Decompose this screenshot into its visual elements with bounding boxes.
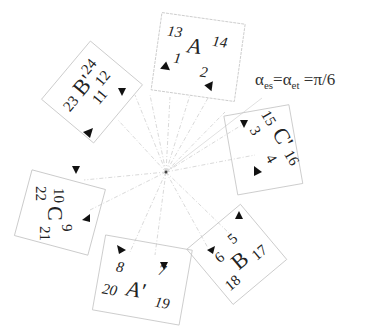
coil-box-c: 22 C 21 10 9 bbox=[14, 170, 105, 256]
slot-label-10: 10 bbox=[51, 188, 67, 203]
end-label-22: 22 bbox=[33, 186, 49, 201]
triangle-down-icon bbox=[240, 120, 248, 128]
slot-label-2: 2 bbox=[199, 64, 209, 81]
winding-phasor-diagram: 13 A 14 1 2 23 B' 24 11 12 15 C' 16 3 4 … bbox=[0, 0, 390, 333]
end-label-17: 17 bbox=[248, 241, 270, 263]
angle-value: =π/6 bbox=[300, 70, 336, 89]
triangle-up-icon bbox=[235, 211, 243, 219]
end-label-13: 13 bbox=[166, 23, 183, 41]
triangle-up-icon bbox=[160, 61, 171, 70]
triangle-right-icon bbox=[82, 214, 90, 222]
angle-formula: αes=αet =π/6 bbox=[255, 70, 335, 91]
slot-label-8: 8 bbox=[115, 258, 126, 275]
subscript-et: et bbox=[292, 79, 300, 91]
subscript-es: es bbox=[264, 79, 273, 91]
triangle-left-icon bbox=[204, 80, 213, 91]
end-label-20: 20 bbox=[101, 280, 119, 298]
coil-box-b: 6 5 B 17 18 bbox=[187, 204, 287, 304]
triangle-down-icon bbox=[118, 88, 126, 96]
end-label-19: 19 bbox=[153, 294, 171, 312]
slot-label-5: 5 bbox=[224, 230, 240, 247]
reference-line bbox=[166, 98, 262, 172]
triangle-down-icon bbox=[72, 166, 80, 174]
end-label-18: 18 bbox=[222, 272, 244, 294]
slot-label-3: 3 bbox=[247, 123, 265, 137]
coil-box-a: 13 A 14 1 2 bbox=[151, 13, 245, 102]
triangle-right-icon bbox=[254, 166, 262, 176]
alpha-symbol: α bbox=[255, 70, 264, 89]
slot-label-1: 1 bbox=[173, 50, 183, 67]
triangle-down-icon bbox=[83, 128, 93, 138]
end-label-21: 21 bbox=[37, 226, 53, 241]
coil-box-a-prime: 8 7 20 A' 19 bbox=[92, 235, 192, 325]
equals-sign: = bbox=[273, 70, 283, 89]
slot-label-4: 4 bbox=[263, 151, 281, 166]
end-label-23: 23 bbox=[60, 93, 82, 115]
phase-label-a-prime: A' bbox=[123, 275, 147, 303]
coil-box-c-prime: 15 C' 16 3 4 bbox=[223, 100, 313, 195]
end-label-14: 14 bbox=[211, 33, 229, 51]
slot-label-9: 9 bbox=[59, 224, 75, 232]
phase-label-c: C bbox=[43, 206, 68, 221]
center-point bbox=[165, 171, 168, 174]
phase-label-a: A bbox=[184, 32, 203, 59]
coil-box-b-prime: 23 B' 24 11 12 bbox=[42, 41, 143, 143]
triangle-down-icon bbox=[117, 245, 126, 254]
alpha-symbol: α bbox=[283, 70, 292, 89]
